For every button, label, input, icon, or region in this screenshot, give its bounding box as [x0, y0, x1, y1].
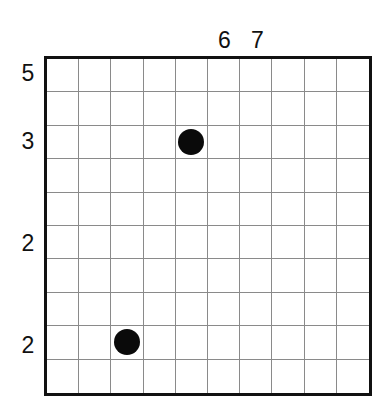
grid-cell-r4-c0[interactable]: [47, 193, 79, 226]
grid-cell-r3-c0[interactable]: [47, 159, 79, 192]
grid-cell-r4-c5[interactable]: [208, 193, 240, 226]
grid-cell-r2-c0[interactable]: [47, 126, 79, 159]
grid-cell-r9-c0[interactable]: [47, 360, 79, 393]
grid-cell-r0-c4[interactable]: [176, 59, 208, 92]
grid-cell-r4-c8[interactable]: [305, 193, 337, 226]
grid-cell-r9-c6[interactable]: [240, 360, 272, 393]
grid-cell-r0-c9[interactable]: [337, 59, 369, 92]
grid-cell-r6-c0[interactable]: [47, 259, 79, 292]
grid-cell-r0-c3[interactable]: [144, 59, 176, 92]
grid-cell-r8-c2[interactable]: [111, 326, 143, 359]
grid-cell-r5-c9[interactable]: [337, 226, 369, 259]
grid-cell-r0-c1[interactable]: [79, 59, 111, 92]
grid-cell-r5-c5[interactable]: [208, 226, 240, 259]
grid-cell-r1-c5[interactable]: [208, 92, 240, 125]
grid-cell-r9-c2[interactable]: [111, 360, 143, 393]
grid-cell-r9-c5[interactable]: [208, 360, 240, 393]
grid-cell-r7-c7[interactable]: [272, 293, 304, 326]
grid-cell-r1-c8[interactable]: [305, 92, 337, 125]
grid-cell-r3-c3[interactable]: [144, 159, 176, 192]
grid-cell-r2-c1[interactable]: [79, 126, 111, 159]
grid-cell-r4-c6[interactable]: [240, 193, 272, 226]
grid-cell-r5-c6[interactable]: [240, 226, 272, 259]
grid-cell-r2-c3[interactable]: [144, 126, 176, 159]
grid-cell-r1-c3[interactable]: [144, 92, 176, 125]
grid-cell-r0-c8[interactable]: [305, 59, 337, 92]
grid-cell-r7-c8[interactable]: [305, 293, 337, 326]
grid-cell-r2-c2[interactable]: [111, 126, 143, 159]
grid-cell-r9-c8[interactable]: [305, 360, 337, 393]
grid-cell-r7-c4[interactable]: [176, 293, 208, 326]
grid-cell-r2-c4[interactable]: [176, 126, 208, 159]
grid-cell-r8-c0[interactable]: [47, 326, 79, 359]
grid-cell-r0-c0[interactable]: [47, 59, 79, 92]
grid-cell-r2-c6[interactable]: [240, 126, 272, 159]
grid-cell-r7-c2[interactable]: [111, 293, 143, 326]
grid-cell-r2-c9[interactable]: [337, 126, 369, 159]
grid-cell-r4-c7[interactable]: [272, 193, 304, 226]
grid-cell-r2-c7[interactable]: [272, 126, 304, 159]
grid-cell-r6-c5[interactable]: [208, 259, 240, 292]
grid-cell-r3-c4[interactable]: [176, 159, 208, 192]
grid-cell-r8-c5[interactable]: [208, 326, 240, 359]
grid-cell-r8-c1[interactable]: [79, 326, 111, 359]
grid-cell-r9-c7[interactable]: [272, 360, 304, 393]
grid-cell-r4-c1[interactable]: [79, 193, 111, 226]
grid-cell-r3-c1[interactable]: [79, 159, 111, 192]
grid-cell-r6-c9[interactable]: [337, 259, 369, 292]
grid-cell-r9-c4[interactable]: [176, 360, 208, 393]
grid-cell-r8-c4[interactable]: [176, 326, 208, 359]
grid-cell-r6-c8[interactable]: [305, 259, 337, 292]
grid-cell-r5-c8[interactable]: [305, 226, 337, 259]
grid-cell-r9-c9[interactable]: [337, 360, 369, 393]
grid-cell-r3-c2[interactable]: [111, 159, 143, 192]
grid-cell-r6-c3[interactable]: [144, 259, 176, 292]
grid-cell-r1-c4[interactable]: [176, 92, 208, 125]
grid-cell-r9-c1[interactable]: [79, 360, 111, 393]
grid-cell-r6-c4[interactable]: [176, 259, 208, 292]
grid-cell-r5-c1[interactable]: [79, 226, 111, 259]
grid-cell-r4-c3[interactable]: [144, 193, 176, 226]
grid-cell-r5-c3[interactable]: [144, 226, 176, 259]
grid-cell-r1-c7[interactable]: [272, 92, 304, 125]
grid-cell-r2-c5[interactable]: [208, 126, 240, 159]
grid-cell-r8-c6[interactable]: [240, 326, 272, 359]
grid-cell-r6-c1[interactable]: [79, 259, 111, 292]
grid-cell-r8-c7[interactable]: [272, 326, 304, 359]
grid-cell-r3-c9[interactable]: [337, 159, 369, 192]
grid-cell-r1-c6[interactable]: [240, 92, 272, 125]
grid-cell-r0-c7[interactable]: [272, 59, 304, 92]
grid-cell-r5-c4[interactable]: [176, 226, 208, 259]
grid-cell-r7-c5[interactable]: [208, 293, 240, 326]
grid-cell-r8-c9[interactable]: [337, 326, 369, 359]
grid-cell-r1-c2[interactable]: [111, 92, 143, 125]
grid-cell-r0-c6[interactable]: [240, 59, 272, 92]
grid-cell-r1-c0[interactable]: [47, 92, 79, 125]
grid-cell-r7-c6[interactable]: [240, 293, 272, 326]
grid-cell-r0-c5[interactable]: [208, 59, 240, 92]
grid-cell-r4-c4[interactable]: [176, 193, 208, 226]
grid-cell-r4-c9[interactable]: [337, 193, 369, 226]
grid-cell-r7-c1[interactable]: [79, 293, 111, 326]
grid-cell-r2-c8[interactable]: [305, 126, 337, 159]
grid-cell-r7-c9[interactable]: [337, 293, 369, 326]
grid-cell-r3-c8[interactable]: [305, 159, 337, 192]
grid-cell-r3-c7[interactable]: [272, 159, 304, 192]
grid-cell-r8-c8[interactable]: [305, 326, 337, 359]
grid-cell-r1-c1[interactable]: [79, 92, 111, 125]
grid-cell-r6-c2[interactable]: [111, 259, 143, 292]
grid-cell-r1-c9[interactable]: [337, 92, 369, 125]
grid-cell-r9-c3[interactable]: [144, 360, 176, 393]
grid-cell-r0-c2[interactable]: [111, 59, 143, 92]
grid-cell-r4-c2[interactable]: [111, 193, 143, 226]
grid-cell-r5-c7[interactable]: [272, 226, 304, 259]
grid-cell-r7-c3[interactable]: [144, 293, 176, 326]
grid-cell-r5-c0[interactable]: [47, 226, 79, 259]
grid-cell-r3-c5[interactable]: [208, 159, 240, 192]
grid-cell-r5-c2[interactable]: [111, 226, 143, 259]
grid-cell-r7-c0[interactable]: [47, 293, 79, 326]
grid-cell-r3-c6[interactable]: [240, 159, 272, 192]
grid-cell-r6-c7[interactable]: [272, 259, 304, 292]
grid-cell-r6-c6[interactable]: [240, 259, 272, 292]
grid-cell-r8-c3[interactable]: [144, 326, 176, 359]
